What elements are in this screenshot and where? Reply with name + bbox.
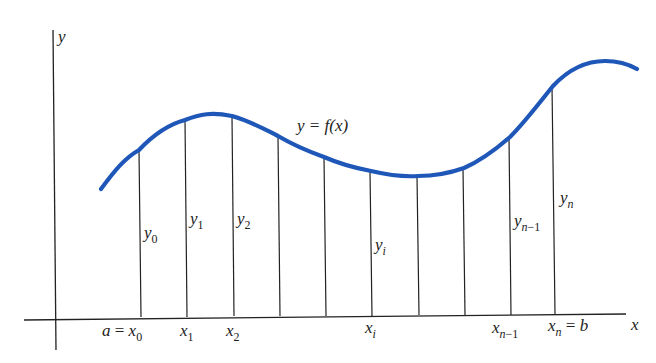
ordinate-yi (370, 171, 372, 316)
ordinate-y3 (278, 136, 280, 316)
curve-f-of-x (101, 61, 637, 189)
label-y0: y0 (142, 223, 158, 246)
ordinate-y4 (324, 157, 326, 316)
ordinate-yn (552, 86, 555, 314)
x-axis (24, 314, 626, 320)
label-xi: xi (364, 318, 376, 341)
x-tick-labels: a = x0 x1 x2 xi xn−1 xn = b (102, 316, 588, 344)
y-axis (53, 30, 56, 350)
label-x0: a = x0 (102, 321, 142, 344)
ordinate-labels: y0 y1 y2 yi yn−1 yn (142, 188, 574, 258)
diagram-canvas: y x y = f(x) y0 y1 y2 yi yn−1 yn a = x0 … (0, 0, 656, 363)
riemann-partition-diagram: y x y = f(x) y0 y1 y2 yi yn−1 yn a = x0 … (0, 0, 656, 363)
label-x1: x1 (179, 321, 194, 344)
label-xn1: xn−1 (491, 318, 518, 341)
label-y1: y1 (188, 209, 204, 232)
label-x2: x2 (225, 321, 240, 344)
ordinate-y6 (417, 176, 419, 315)
label-y2: y2 (235, 209, 251, 232)
ordinate-y7 (463, 168, 465, 315)
label-yi: yi (373, 235, 386, 258)
label-xn: xn = b (547, 316, 588, 339)
ordinate-y0 (139, 150, 141, 317)
label-yn1: yn−1 (512, 211, 540, 234)
label-yn: yn (558, 188, 574, 211)
curve-label: y = f(x) (295, 116, 348, 135)
y-axis-label: y (56, 27, 66, 46)
ordinate-y1 (185, 120, 187, 317)
ordinate-y2 (232, 116, 234, 316)
ordinate-yn1 (509, 137, 511, 315)
x-axis-label: x (630, 315, 639, 334)
